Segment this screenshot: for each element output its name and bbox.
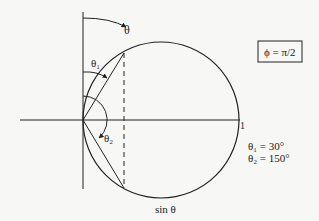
- theta1-arc-arrow: [83, 72, 107, 78]
- theta2-label: θ₂: [104, 132, 113, 144]
- phase-box-label: ϕ = π/2: [264, 46, 296, 58]
- theta2-value-annotation: θ₂ = 150°: [248, 152, 290, 164]
- theta1-value-annotation: θ₁ = 30°: [248, 140, 284, 152]
- theta1-chord: [83, 53, 124, 120]
- unit-radius-label: 1: [240, 120, 245, 131]
- theta-arc-arrow: [83, 18, 126, 27]
- theta-label: θ: [124, 23, 130, 37]
- radiation-pattern-diagram: θ θ₁ θ₂ 1 sin θ ϕ = π/2 θ₁ = 30° θ₂ = 15…: [0, 0, 319, 221]
- pattern-label: sin θ: [155, 203, 176, 215]
- theta2-chord: [83, 120, 124, 188]
- theta1-label: θ₁: [91, 57, 100, 69]
